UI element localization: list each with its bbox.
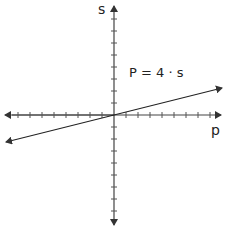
equation-label: P = 4 · s xyxy=(129,66,183,79)
coordinate-plane xyxy=(0,0,231,230)
x-axis-label: p xyxy=(211,123,220,137)
y-axis-label: s xyxy=(98,2,105,16)
equation-line xyxy=(114,88,222,115)
